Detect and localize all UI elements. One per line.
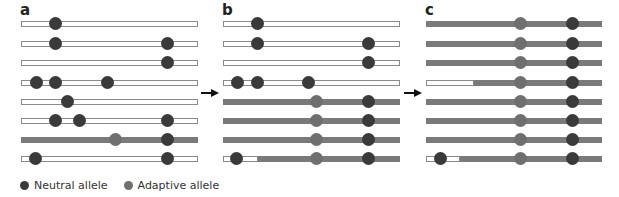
- neutral-allele-dot-icon: [161, 37, 174, 50]
- chromosome-b-3: [223, 60, 400, 66]
- neutral-allele-dot-icon: [161, 152, 174, 165]
- neutral-allele-dot-icon: [20, 181, 29, 190]
- ancestral-segment: [21, 99, 198, 105]
- chromosome-c-6: [426, 118, 602, 124]
- neutral-allele-dot-icon: [362, 152, 375, 165]
- arrow-right-icon: [201, 88, 219, 98]
- neutral-allele-dot-icon: [566, 152, 579, 165]
- chromosome-b-4: [223, 80, 400, 86]
- chromosome-b-1: [223, 21, 400, 27]
- neutral-allele-dot-icon: [566, 17, 579, 30]
- neutral-allele-dot-icon: [302, 76, 315, 89]
- panel-label-b: b: [222, 3, 233, 18]
- neutral-allele-dot-icon: [49, 17, 62, 30]
- adaptive-allele-dot-icon: [514, 17, 527, 30]
- chromosome-b-2: [223, 41, 400, 47]
- neutral-allele-dot-icon: [362, 133, 375, 146]
- neutral-allele-dot-icon: [566, 56, 579, 69]
- neutral-allele-dot-icon: [30, 76, 43, 89]
- arrow-right-icon: [404, 88, 422, 98]
- chromosome-a-8: [21, 156, 198, 162]
- chromosome-c-3: [426, 60, 602, 66]
- chromosome-b-6: [223, 118, 400, 124]
- chromosome-a-6: [21, 118, 198, 124]
- chromosome-c-4: [426, 80, 602, 86]
- legend-adaptive-label: Adaptive allele: [138, 179, 220, 192]
- neutral-allele-dot-icon: [161, 56, 174, 69]
- adaptive-allele-dot-icon: [514, 76, 527, 89]
- neutral-allele-dot-icon: [362, 56, 375, 69]
- adaptive-allele-dot-icon: [310, 114, 323, 127]
- hitchhiking-segment: [258, 156, 400, 162]
- adaptive-allele-dot-icon: [514, 56, 527, 69]
- legend-neutral-label: Neutral allele: [34, 179, 108, 192]
- adaptive-allele-dot-icon: [124, 181, 133, 190]
- chromosome-b-5: [223, 99, 400, 105]
- chromosome-a-5: [21, 99, 198, 105]
- neutral-allele-dot-icon: [362, 114, 375, 127]
- adaptive-allele-dot-icon: [514, 152, 527, 165]
- adaptive-allele-dot-icon: [310, 95, 323, 108]
- chromosome-a-1: [21, 21, 198, 27]
- neutral-allele-dot-icon: [49, 114, 62, 127]
- neutral-allele-dot-icon: [251, 17, 264, 30]
- ancestral-segment: [223, 21, 400, 27]
- adaptive-allele-dot-icon: [514, 133, 527, 146]
- chromosome-a-4: [21, 80, 198, 86]
- legend-neutral: Neutral allele: [20, 179, 108, 192]
- chromosome-a-7: [21, 137, 198, 143]
- neutral-allele-dot-icon: [434, 152, 447, 165]
- adaptive-allele-dot-icon: [514, 114, 527, 127]
- adaptive-allele-dot-icon: [514, 37, 527, 50]
- neutral-allele-dot-icon: [362, 37, 375, 50]
- legend-adaptive: Adaptive allele: [124, 179, 220, 192]
- neutral-allele-dot-icon: [566, 133, 579, 146]
- panel-label-a: a: [20, 3, 30, 18]
- panel-label-c: c: [425, 3, 434, 18]
- adaptive-allele-dot-icon: [310, 133, 323, 146]
- neutral-allele-dot-icon: [61, 95, 74, 108]
- chromosome-a-3: [21, 60, 198, 66]
- neutral-allele-dot-icon: [566, 114, 579, 127]
- neutral-allele-dot-icon: [49, 37, 62, 50]
- chromosome-c-8: [426, 156, 602, 162]
- chromosome-c-7: [426, 137, 602, 143]
- neutral-allele-dot-icon: [251, 76, 264, 89]
- chromosome-c-1: [426, 21, 602, 27]
- neutral-allele-dot-icon: [49, 76, 62, 89]
- adaptive-allele-dot-icon: [310, 152, 323, 165]
- neutral-allele-dot-icon: [161, 133, 174, 146]
- ancestral-segment: [426, 80, 474, 86]
- neutral-allele-dot-icon: [29, 152, 42, 165]
- neutral-allele-dot-icon: [101, 76, 114, 89]
- legend: Neutral allele Adaptive allele: [20, 179, 235, 192]
- chromosome-a-2: [21, 41, 198, 47]
- neutral-allele-dot-icon: [230, 152, 243, 165]
- hitchhiking-segment: [474, 80, 602, 86]
- chromosome-c-5: [426, 99, 602, 105]
- neutral-allele-dot-icon: [566, 95, 579, 108]
- chromosome-b-7: [223, 137, 400, 143]
- neutral-allele-dot-icon: [231, 76, 244, 89]
- chromosome-b-8: [223, 156, 400, 162]
- neutral-allele-dot-icon: [362, 95, 375, 108]
- ancestral-segment: [21, 21, 198, 27]
- neutral-allele-dot-icon: [566, 37, 579, 50]
- adaptive-allele-dot-icon: [109, 133, 122, 146]
- hitchhiking-segment: [460, 156, 602, 162]
- neutral-allele-dot-icon: [73, 114, 86, 127]
- chromosome-c-2: [426, 41, 602, 47]
- neutral-allele-dot-icon: [566, 76, 579, 89]
- neutral-allele-dot-icon: [251, 37, 264, 50]
- neutral-allele-dot-icon: [161, 114, 174, 127]
- adaptive-allele-dot-icon: [514, 95, 527, 108]
